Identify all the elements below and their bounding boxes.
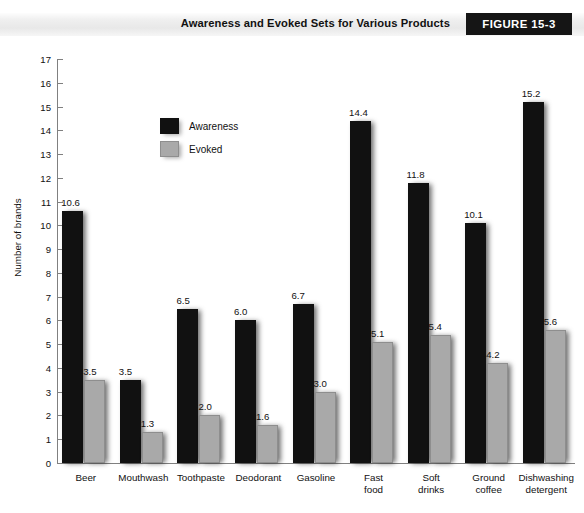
bar-awareness <box>408 183 429 463</box>
bar-value-label: 6.0 <box>234 306 247 317</box>
bar-evoked <box>142 432 163 463</box>
y-axis-tick-label: 12 <box>31 172 51 183</box>
bar-value-label: 3.5 <box>83 366 96 377</box>
y-axis-tick-label: 10 <box>31 220 51 231</box>
y-axis-tick-label: 8 <box>31 267 51 278</box>
y-axis-tick-label: 3 <box>31 386 51 397</box>
bar-value-label: 10.6 <box>61 197 80 208</box>
bar-value-label: 5.1 <box>371 328 384 339</box>
y-axis-tick-label: 6 <box>31 315 51 326</box>
y-axis-tick-label: 2 <box>31 410 51 421</box>
x-axis-category-label: Soft drinks <box>398 472 464 496</box>
bar-evoked <box>199 415 220 463</box>
legend-item-awareness: Awareness <box>160 118 238 134</box>
bar-value-label: 1.3 <box>141 418 154 429</box>
bar-evoked <box>545 330 566 463</box>
bar-value-label: 6.7 <box>292 290 305 301</box>
x-axis-line <box>57 463 575 464</box>
bar-awareness <box>293 304 314 463</box>
y-axis-tick-label: 11 <box>31 196 51 207</box>
bar-value-label: 2.0 <box>198 401 211 412</box>
x-axis-category-label: Deodorant <box>226 472 292 484</box>
bar-value-label: 11.8 <box>407 169 425 180</box>
y-axis-title: Number of brands <box>12 178 23 298</box>
y-axis-tick <box>58 83 63 84</box>
bar-value-label: 1.6 <box>256 411 269 422</box>
bar-value-label: 10.1 <box>464 209 483 220</box>
chart-plot-area: Number of brands 01234567891011121314151… <box>0 0 584 513</box>
y-axis-tick-label: 7 <box>31 291 51 302</box>
y-axis-tick <box>58 59 63 60</box>
y-axis-tick-label: 17 <box>31 54 51 65</box>
y-axis-tick-label: 4 <box>31 362 51 373</box>
cut-off-footer-text <box>112 508 572 513</box>
y-axis-tick-label: 5 <box>31 339 51 350</box>
bar-awareness <box>177 309 198 463</box>
bar-value-label: 5.6 <box>544 316 557 327</box>
y-axis-tick-label: 15 <box>31 101 51 112</box>
y-axis-tick <box>58 107 63 108</box>
bar-evoked <box>430 335 451 463</box>
bar-awareness <box>62 211 83 463</box>
x-axis-category-label: Dishwashing detergent <box>513 472 579 496</box>
x-axis-category-label: Fast food <box>341 472 407 496</box>
bar-value-label: 6.5 <box>176 295 189 306</box>
bar-awareness <box>235 320 256 463</box>
y-axis-tick-label: 16 <box>31 77 51 88</box>
bar-evoked <box>372 342 393 463</box>
legend-item-evoked: Evoked <box>160 141 238 157</box>
bar-awareness <box>350 121 371 463</box>
y-axis-tick-label: 14 <box>31 125 51 136</box>
y-axis-tick-label: 1 <box>31 434 51 445</box>
y-axis-tick-label: 13 <box>31 149 51 160</box>
chart-legend: Awareness Evoked <box>160 118 238 164</box>
legend-label: Awareness <box>189 121 238 132</box>
y-axis-tick <box>58 463 63 464</box>
bar-awareness <box>523 102 544 463</box>
bar-value-label: 3.0 <box>314 378 327 389</box>
bar-evoked <box>487 363 508 463</box>
bar-value-label: 3.5 <box>119 366 132 377</box>
bar-evoked <box>84 380 105 463</box>
bar-evoked <box>257 425 278 463</box>
y-axis-tick-label: 9 <box>31 244 51 255</box>
y-axis-line <box>57 59 58 464</box>
x-axis-category-label: Gasoline <box>283 472 349 484</box>
bar-value-label: 5.4 <box>429 321 442 332</box>
y-axis-tick-label: 0 <box>31 458 51 469</box>
bar-value-label: 4.2 <box>486 349 499 360</box>
filled-square-icon <box>160 118 179 134</box>
x-axis-category-label: Ground coffee <box>456 472 522 496</box>
bar-value-label: 14.4 <box>349 107 368 118</box>
filled-square-icon <box>160 141 179 157</box>
legend-label: Evoked <box>189 144 222 155</box>
x-axis-category-label: Beer <box>53 472 119 484</box>
x-axis-category-label: Mouthwash <box>111 472 177 484</box>
bar-awareness <box>120 380 141 463</box>
y-axis-tick <box>58 154 63 155</box>
bar-awareness <box>465 223 486 463</box>
y-axis-tick <box>58 178 63 179</box>
y-axis-tick <box>58 130 63 131</box>
bar-value-label: 15.2 <box>522 88 541 99</box>
x-axis-category-label: Toothpaste <box>168 472 234 484</box>
bar-evoked <box>315 392 336 463</box>
